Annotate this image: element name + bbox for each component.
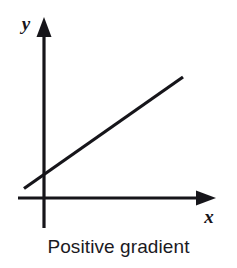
x-axis-label: x (203, 206, 214, 227)
y-axis-label: y (20, 13, 31, 34)
positive-gradient-diagram: y x (0, 0, 237, 268)
figure-background (0, 0, 237, 268)
figure-caption: Positive gradient (0, 236, 237, 258)
